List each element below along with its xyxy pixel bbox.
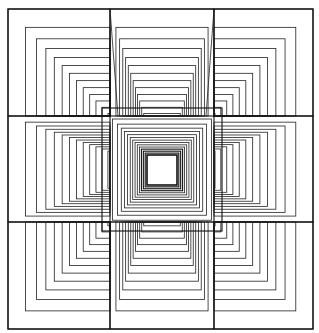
grid-cells — [8, 9, 313, 329]
geometric-line-art — [0, 0, 319, 333]
center-square — [102, 108, 222, 231]
